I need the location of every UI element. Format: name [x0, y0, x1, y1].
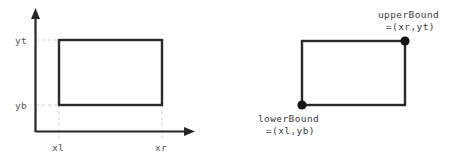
lower-bound-label: lowerBound [258, 113, 319, 124]
left-rectangle [59, 40, 162, 105]
tick-label-yt: yt [15, 35, 27, 46]
tick-label-xl: xl [52, 142, 64, 153]
upper-bound-point [400, 36, 409, 45]
y-axis-arrow-icon [31, 8, 40, 19]
lower-bound-value: =(xl,yb) [266, 125, 315, 136]
x-axis-arrow-icon [184, 127, 195, 136]
bounding-box-figure: yt yb xl xr upperBound =(xr,yt) lowerBou… [0, 0, 451, 159]
tick-label-xr: xr [155, 142, 167, 153]
right-diagram-group: upperBound =(xr,yt) lowerBound =(xl,yb) [258, 9, 439, 136]
right-rectangle [302, 41, 405, 105]
upper-bound-label: upperBound [378, 9, 439, 20]
upper-bound-value: =(xr,yt) [386, 21, 435, 32]
tick-label-yb: yb [15, 100, 27, 111]
left-diagram-group: yt yb xl xr [15, 8, 195, 153]
figure-canvas: yt yb xl xr upperBound =(xr,yt) lowerBou… [0, 0, 451, 159]
lower-bound-point [297, 100, 306, 109]
